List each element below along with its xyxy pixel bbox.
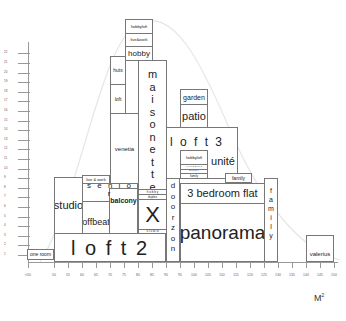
y-tick-label: 3	[4, 233, 6, 237]
block-maisonette: maisonette	[138, 60, 167, 190]
y-tick-label: 8	[4, 185, 6, 189]
y-tick	[18, 226, 30, 227]
letter: o	[149, 119, 155, 130]
y-tick-label: 21	[4, 60, 7, 64]
block-loft: loft	[110, 84, 126, 114]
y-tick	[18, 140, 30, 141]
y-tick-label: 12	[4, 146, 7, 150]
x-tick	[110, 262, 111, 268]
letter: f	[270, 187, 272, 194]
block-family-vertical: family	[264, 178, 278, 262]
block-x-bottom: s t u d i o	[138, 229, 167, 234]
block-hobby: hobby	[125, 46, 153, 61]
y-tick	[18, 53, 30, 54]
block-x: X	[138, 199, 167, 230]
x-tick	[180, 262, 181, 268]
y-tick	[18, 149, 30, 150]
y-tick-label: 10	[4, 166, 7, 170]
x-tick	[292, 262, 293, 268]
y-tick-label: 17	[4, 98, 7, 102]
x-tick	[166, 262, 167, 268]
x-tick	[208, 262, 209, 268]
letter: i	[270, 214, 272, 221]
y-tick-label: 14	[4, 127, 7, 131]
y-tick	[18, 130, 30, 131]
block-hobbyloft-mid: hobbyloft	[180, 150, 208, 165]
x-tick-label: 130	[275, 273, 281, 277]
x-tick-label: 85	[150, 273, 154, 277]
x-tick-label: 125	[261, 273, 267, 277]
x-tick	[278, 262, 279, 268]
x-tick-label: 100	[191, 273, 197, 277]
y-tick	[18, 245, 30, 246]
block-live-work-small: live & work	[82, 175, 110, 184]
y-tick	[18, 178, 30, 179]
letter: z	[171, 224, 175, 232]
x-tick	[250, 262, 251, 268]
x-tick	[264, 262, 265, 268]
y-tick	[18, 197, 30, 198]
x-tick-label: 70	[108, 273, 112, 277]
x-tick-label: 75	[122, 273, 126, 277]
x-tick	[194, 262, 195, 268]
x-tick	[334, 262, 335, 268]
y-tick	[18, 207, 30, 208]
x-tick-label: 150	[331, 273, 337, 277]
y-tick	[18, 73, 30, 74]
letter: i	[151, 94, 153, 105]
x-tick-label: 95	[178, 273, 182, 277]
letter: r	[172, 214, 175, 222]
block-huts: huts	[110, 56, 126, 85]
x-tick	[124, 262, 125, 268]
y-tick	[18, 63, 30, 64]
y-tick-label: 20	[4, 70, 7, 74]
x-tick-label: 120	[247, 273, 253, 277]
y-tick	[18, 169, 30, 170]
letter: o	[171, 203, 175, 211]
letter: a	[269, 196, 273, 203]
x-tick-label: <50	[25, 273, 31, 277]
x-tick-label: 50	[52, 273, 56, 277]
letter: t	[151, 157, 154, 168]
block-one-room: one room	[27, 249, 54, 260]
letter: e	[149, 144, 155, 155]
x-tick-label: 115	[233, 273, 239, 277]
block-3-bedroom-flat: 3 bedroom flat	[180, 183, 265, 204]
x-tick-label: 105	[205, 273, 211, 277]
letter: n	[171, 245, 175, 253]
y-tick	[18, 82, 30, 83]
y-tick-label: 6	[4, 204, 6, 208]
x-tick-label: 60	[80, 273, 84, 277]
letter: m	[268, 205, 274, 212]
x-tick	[68, 262, 69, 268]
letter: o	[171, 193, 175, 201]
letter: l	[270, 223, 272, 230]
y-tick-label: 11	[4, 156, 7, 160]
x-tick	[236, 262, 237, 268]
x-tick-label: 80	[136, 273, 140, 277]
y-tick-label: 2	[4, 242, 6, 246]
letter: m	[148, 69, 157, 80]
letter: n	[149, 132, 155, 143]
y-tick-label: 16	[4, 108, 7, 112]
x-tick-label: 145	[317, 273, 323, 277]
y-tick	[18, 188, 30, 189]
letter: d	[171, 182, 175, 190]
x-tick	[306, 262, 307, 268]
block-patio: patio	[180, 104, 208, 128]
block-venetia: venetia	[110, 113, 139, 184]
y-tick-label: 9	[4, 175, 6, 179]
x-tick-label: 135	[289, 273, 295, 277]
block-family-small: family	[225, 173, 252, 183]
block-panorama: panorama	[180, 203, 265, 262]
x-tick	[96, 262, 97, 268]
x-tick-label: 110	[219, 273, 225, 277]
block-loft-2: l o f t 2	[54, 233, 166, 262]
x-tick-label: 65	[94, 273, 98, 277]
y-tick-label: 7	[4, 194, 6, 198]
block-senior: s e n i o r	[82, 183, 138, 202]
block-live-work-top: live&work	[125, 33, 153, 47]
block-garden: garden	[180, 89, 208, 105]
block-mid-small-3: family	[180, 173, 208, 179]
y-tick	[18, 121, 30, 122]
